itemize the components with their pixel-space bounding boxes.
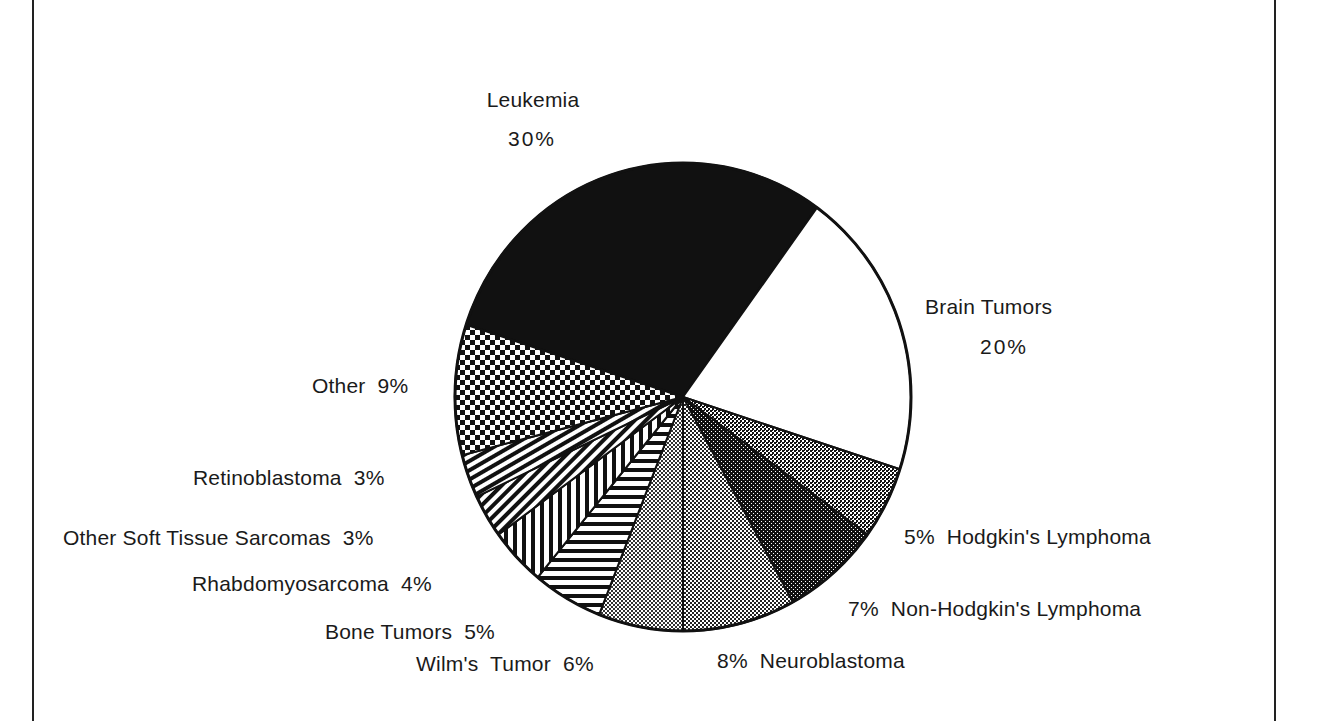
label-wilms-tumor: Wilm's Tumor 6% <box>416 652 594 676</box>
label-bone-tumors: Bone Tumors 5% <box>325 620 495 644</box>
label-rhabdomyosarcoma: Rhabdomyosarcoma 4% <box>192 572 432 596</box>
label-brain-pct: 20% <box>980 335 1028 359</box>
label-retinoblastoma: Retinoblastoma 3% <box>193 466 385 490</box>
label-leukemia-pct: 30% <box>508 127 556 151</box>
pie-slices <box>455 163 911 631</box>
label-brain-name: Brain Tumors <box>925 295 1052 319</box>
label-leukemia-name: Leukemia <box>487 88 580 112</box>
label-other: Other 9% <box>312 374 408 398</box>
label-non-hodgkins: 7% Non-Hodgkin's Lymphoma <box>848 597 1141 621</box>
label-other-soft-tissue-sarcomas: Other Soft Tissue Sarcomas 3% <box>63 526 374 550</box>
label-neuroblastoma: 8% Neuroblastoma <box>717 649 905 673</box>
label-hodgkins: 5% Hodgkin's Lymphoma <box>904 525 1151 549</box>
